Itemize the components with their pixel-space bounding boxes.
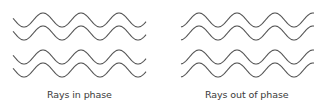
out-of-phase-panel: Rays out of phase: [0, 0, 325, 112]
caption-out-of-phase: Rays out of phase: [205, 89, 289, 100]
wave-3: [181, 50, 314, 64]
out-of-phase-waves: [0, 0, 325, 85]
wave-2: [181, 26, 314, 40]
wave-4: [181, 63, 314, 77]
wave-1: [181, 13, 314, 27]
